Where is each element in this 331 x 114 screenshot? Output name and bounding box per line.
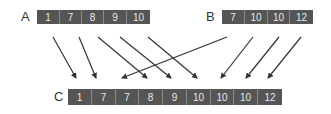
array-c-cell: 9 bbox=[163, 89, 187, 105]
array-c-cell: 10 bbox=[234, 89, 258, 105]
arrow-a1-c1 bbox=[79, 37, 96, 78]
array-c-cell: 8 bbox=[139, 89, 163, 105]
array-c-cell: 12 bbox=[258, 89, 282, 105]
array-c-cell: 1 bbox=[68, 89, 92, 105]
arrow-b2-c7 bbox=[246, 37, 279, 78]
array-c-cell: 10 bbox=[187, 89, 211, 105]
arrow-b1-c6 bbox=[221, 37, 253, 78]
array-c-label: C bbox=[54, 90, 63, 104]
array-c-cell: 7 bbox=[92, 89, 116, 105]
arrow-a3-c4 bbox=[120, 37, 171, 78]
arrow-a4-c5 bbox=[148, 37, 197, 78]
array-c-cell: 7 bbox=[116, 89, 139, 105]
arrow-b3-c8 bbox=[268, 37, 301, 78]
array-c-cell: 10 bbox=[211, 89, 234, 105]
arrow-a2-c3 bbox=[98, 37, 147, 78]
arrow-a0-c0 bbox=[53, 37, 76, 78]
array-c: 1 7 7 8 9 10 10 10 12 bbox=[68, 89, 282, 105]
arrow-b0-c2 bbox=[122, 37, 227, 78]
